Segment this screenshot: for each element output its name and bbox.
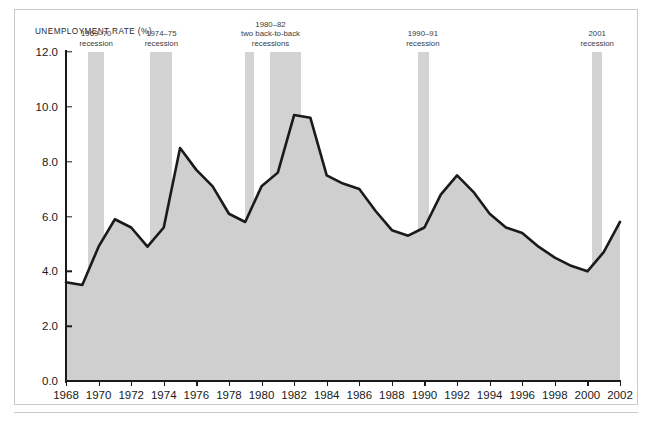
x-tick-label: 1974 (151, 389, 177, 401)
y-tick-mark (66, 325, 72, 326)
x-tick-label: 1976 (184, 389, 210, 401)
x-tick-mark (66, 381, 67, 386)
x-tick-label: 1984 (314, 389, 340, 401)
x-tick-label: 2000 (575, 389, 601, 401)
y-tick-label: 12.0 (36, 46, 58, 58)
x-tick-label: 2002 (607, 389, 633, 401)
x-tick-mark (262, 381, 263, 386)
x-tick-mark (490, 381, 491, 386)
y-tick-mark (66, 106, 72, 107)
y-tick-mark (66, 161, 72, 162)
y-tick-label: 6.0 (42, 211, 58, 223)
x-tick-mark (327, 381, 328, 386)
y-tick-label: 0.0 (42, 375, 58, 387)
x-tick-mark (457, 381, 458, 386)
x-tick-mark (164, 381, 165, 386)
y-tick-label: 4.0 (42, 265, 58, 277)
x-tick-mark (587, 381, 588, 386)
x-tick-label: 1990 (412, 389, 438, 401)
x-tick-mark (131, 381, 132, 386)
x-tick-label: 1982 (281, 389, 307, 401)
x-tick-label: 1986 (346, 389, 372, 401)
x-tick-mark (359, 381, 360, 386)
x-tick-mark (392, 381, 393, 386)
x-tick-label: 1994 (477, 389, 503, 401)
x-tick-label: 1996 (509, 389, 535, 401)
y-tick-mark (66, 51, 72, 52)
x-tick-mark (555, 381, 556, 386)
x-tick-label: 1972 (118, 389, 144, 401)
unemployment-series (0, 0, 652, 422)
x-tick-label: 1968 (53, 389, 79, 401)
x-tick-mark (424, 381, 425, 386)
y-tick-mark (66, 216, 72, 217)
y-tick-mark (66, 271, 72, 272)
x-tick-label: 1992 (444, 389, 470, 401)
figure-root: UNEMPLOYMENT RATE (%) 1969–70recession19… (0, 0, 652, 422)
y-tick-label: 8.0 (42, 156, 58, 168)
x-tick-mark (99, 381, 100, 386)
x-tick-label: 1998 (542, 389, 568, 401)
x-tick-mark (196, 381, 197, 386)
x-tick-mark (522, 381, 523, 386)
x-tick-mark (229, 381, 230, 386)
x-tick-mark (294, 381, 295, 386)
x-tick-mark (620, 381, 621, 386)
x-axis-line (65, 380, 621, 382)
y-tick-label: 10.0 (36, 101, 58, 113)
y-tick-label: 2.0 (42, 320, 58, 332)
x-tick-label: 1980 (249, 389, 275, 401)
x-tick-label: 1978 (216, 389, 242, 401)
x-tick-label: 1970 (86, 389, 112, 401)
x-tick-label: 1988 (379, 389, 405, 401)
series-area-fill (66, 115, 620, 381)
